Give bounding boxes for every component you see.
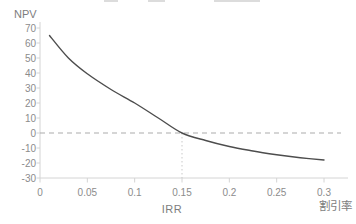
y-tick-label: 20 xyxy=(25,98,37,109)
x-tick-label: 0 xyxy=(37,187,43,198)
y-tick-label: 30 xyxy=(25,83,37,94)
x-tick-label: 0.25 xyxy=(267,187,287,198)
y-tick-label: -30 xyxy=(22,173,37,184)
chart-canvas: 706050403020100-10-20-3000.050.10.150.20… xyxy=(0,0,356,224)
x-tick-label: 0.1 xyxy=(128,187,142,198)
y-tick-label: 50 xyxy=(25,53,37,64)
y-tick-label: -20 xyxy=(22,158,37,169)
x-tick-label: 0.15 xyxy=(172,187,192,198)
y-tick-label: 60 xyxy=(25,38,37,49)
x-tick-label: 0.05 xyxy=(78,187,98,198)
x-tick-label: 0.2 xyxy=(222,187,236,198)
y-tick-label: 40 xyxy=(25,68,37,79)
npv-curve xyxy=(50,36,325,161)
y-tick-label: 10 xyxy=(25,113,37,124)
npv-irr-chart: 706050403020100-10-20-3000.050.10.150.20… xyxy=(0,0,356,224)
x-axis-title: 割引率 xyxy=(306,200,352,212)
x-tick-label: 0.3 xyxy=(317,187,331,198)
y-axis-title: NPV xyxy=(14,8,37,20)
y-tick-label: -10 xyxy=(22,143,37,154)
y-tick-label: 0 xyxy=(30,128,36,139)
irr-annotation-label: IRR xyxy=(150,203,194,215)
y-tick-label: 70 xyxy=(25,23,37,34)
